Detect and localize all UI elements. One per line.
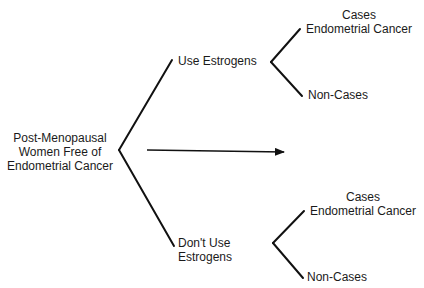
- outcome-noncases-dont-use: Non-Cases: [307, 270, 367, 284]
- branch-label-line: Estrogens: [178, 250, 232, 264]
- branch-line-dont-use: [119, 150, 174, 246]
- dont-use-fork: [273, 211, 304, 278]
- outcome-cases-use: Cases Endometrial Cancer: [300, 8, 418, 36]
- use-fork: [271, 29, 302, 96]
- outcome-noncases-use: Non-Cases: [308, 88, 368, 102]
- root-label-line: Women Free of: [4, 145, 116, 159]
- outcome-line: Cases: [304, 190, 422, 204]
- outcome-cases-dont-use: Cases Endometrial Cancer: [304, 190, 422, 218]
- time-arrow: [147, 150, 284, 152]
- root-label-line: Endometrial Cancer: [4, 159, 116, 173]
- root-fork: [119, 60, 174, 246]
- root-label-line: Post-Menopausal: [4, 131, 116, 145]
- root-label: Post-Menopausal Women Free of Endometria…: [4, 131, 116, 173]
- branch-label-dont-use-estrogens: Don't Use Estrogens: [178, 236, 232, 264]
- outcome-line: Cases: [300, 8, 418, 22]
- branch-line-use: [119, 60, 172, 150]
- outcome-line: Endometrial Cancer: [304, 204, 422, 218]
- branch-label-use-estrogens: Use Estrogens: [178, 54, 257, 68]
- outcome-line: Endometrial Cancer: [300, 22, 418, 36]
- branch-label-line: Don't Use: [178, 236, 232, 250]
